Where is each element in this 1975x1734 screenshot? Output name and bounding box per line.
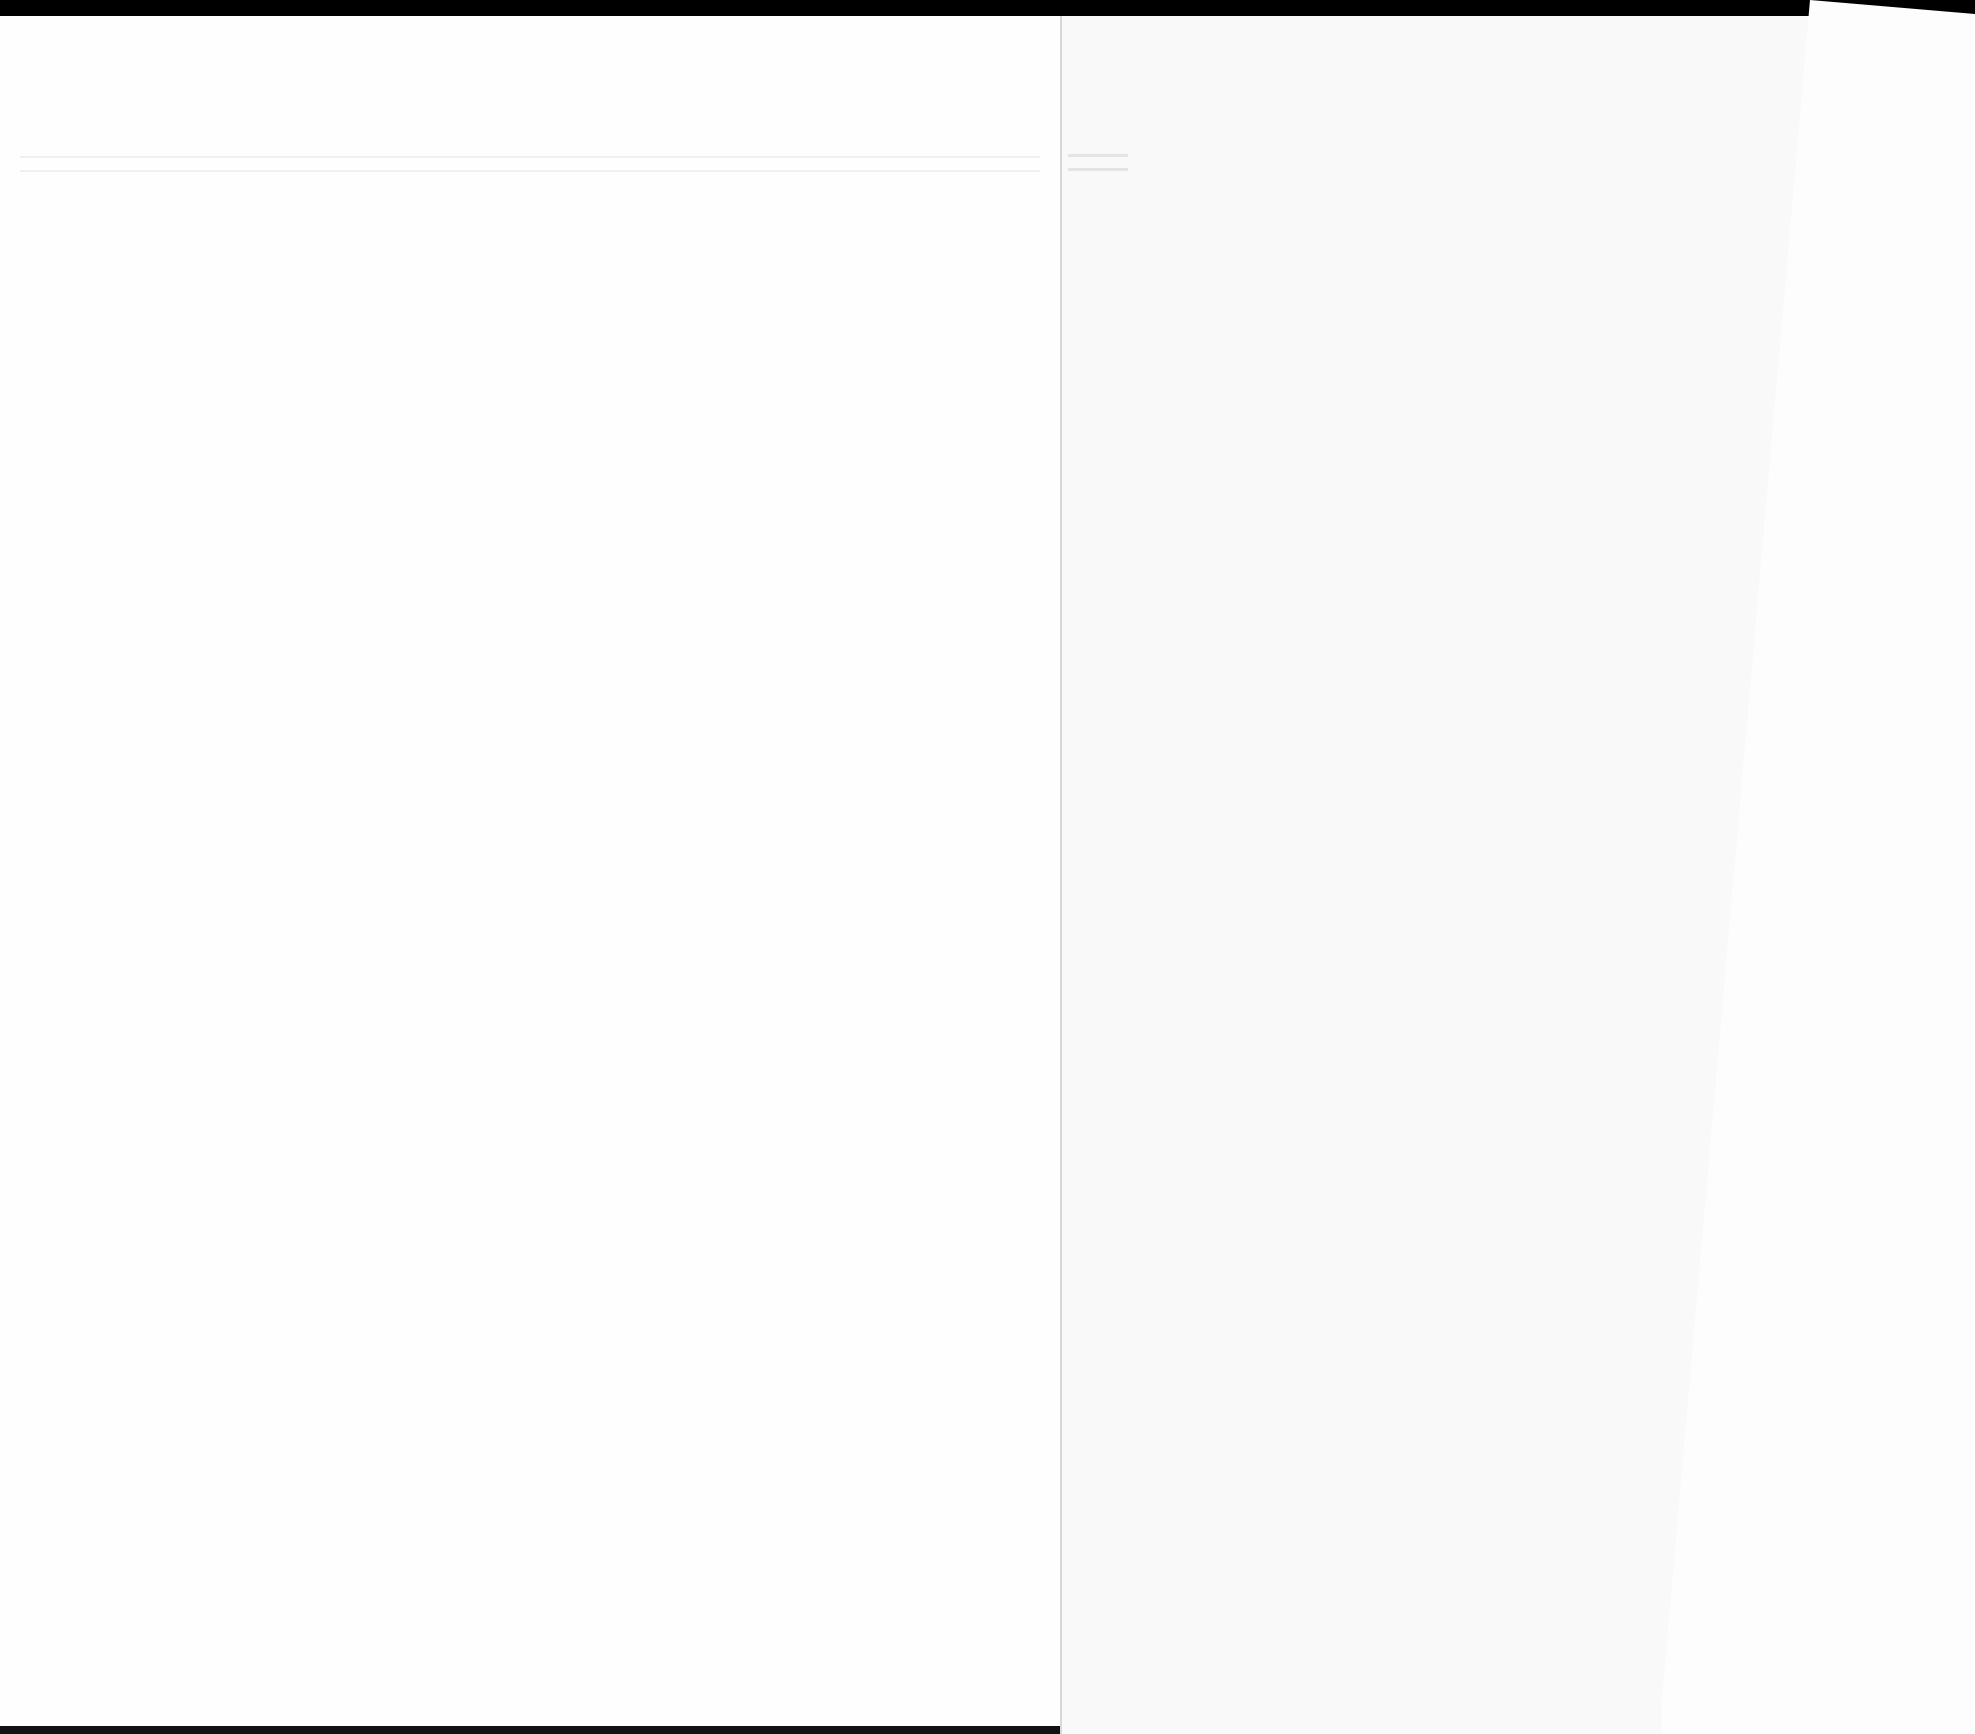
bleed-through-line <box>20 156 1040 158</box>
bleed-through-line <box>20 170 1040 172</box>
left-page <box>0 16 1060 1726</box>
bleed-through-mark <box>1068 168 1128 171</box>
bleed-through-mark <box>1068 154 1128 157</box>
scan-edge <box>0 1726 1060 1734</box>
